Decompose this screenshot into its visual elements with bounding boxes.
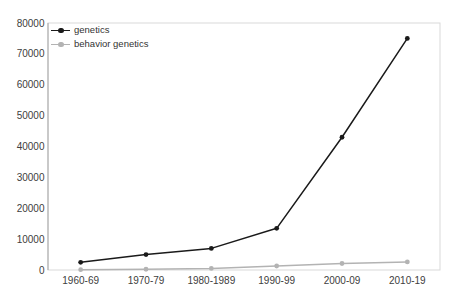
- data-point-genetics: [340, 135, 345, 140]
- data-point-genetics: [274, 226, 279, 231]
- legend-marker-behavior-genetics: [51, 41, 70, 48]
- y-tick-label: 40000: [17, 141, 45, 152]
- data-point-behavior-genetics: [78, 267, 83, 272]
- y-tick-label: 10000: [17, 234, 45, 245]
- legend-item-behavior-genetics: behavior genetics: [51, 37, 148, 51]
- legend-dot-genetics: [58, 28, 64, 34]
- x-tick-label: 2010-19: [389, 275, 426, 286]
- data-point-behavior-genetics: [340, 261, 345, 266]
- legend-label-behavior-genetics: behavior genetics: [74, 37, 148, 51]
- data-point-genetics: [78, 260, 83, 265]
- data-point-behavior-genetics: [209, 266, 214, 271]
- data-point-genetics: [144, 252, 149, 257]
- y-tick-label: 0: [39, 265, 45, 276]
- y-tick-label: 80000: [17, 18, 45, 29]
- data-point-behavior-genetics: [405, 260, 410, 265]
- x-tick-label: 1970-79: [128, 275, 165, 286]
- legend: genetics behavior genetics: [51, 23, 148, 51]
- chart-container: 0100002000030000400005000060000700008000…: [0, 0, 454, 302]
- data-point-behavior-genetics: [274, 264, 279, 269]
- y-tick-label: 60000: [17, 79, 45, 90]
- y-tick-label: 50000: [17, 110, 45, 121]
- data-point-genetics: [405, 36, 410, 41]
- y-tick-label: 20000: [17, 203, 45, 214]
- legend-item-genetics: genetics: [51, 23, 148, 37]
- plot-area-border: [48, 23, 440, 270]
- series-line-behavior-genetics: [81, 262, 408, 270]
- legend-dot-behavior-genetics: [58, 42, 64, 48]
- x-tick-label: 1980-1989: [187, 275, 235, 286]
- y-tick-label: 70000: [17, 48, 45, 59]
- data-point-genetics: [209, 246, 214, 251]
- x-tick-label: 1960-69: [62, 275, 99, 286]
- x-tick-label: 1990-99: [258, 275, 295, 286]
- legend-label-genetics: genetics: [74, 23, 109, 37]
- x-tick-label: 2000-09: [324, 275, 361, 286]
- y-tick-label: 30000: [17, 172, 45, 183]
- data-point-behavior-genetics: [144, 267, 149, 272]
- legend-marker-genetics: [51, 27, 70, 34]
- series-line-genetics: [81, 38, 408, 262]
